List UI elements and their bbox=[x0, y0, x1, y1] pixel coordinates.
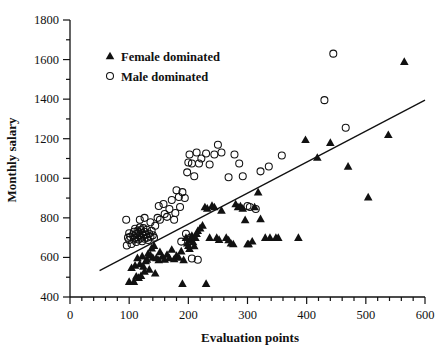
y-tick-label: 1800 bbox=[34, 13, 59, 27]
data-point-female-dominated bbox=[384, 130, 393, 138]
data-point-male-dominated bbox=[177, 203, 184, 210]
data-point-female-dominated bbox=[198, 221, 207, 229]
data-point-male-dominated bbox=[231, 151, 238, 158]
data-point-male-dominated bbox=[147, 219, 154, 226]
data-point-male-dominated bbox=[152, 222, 159, 229]
data-point-male-dominated bbox=[171, 216, 178, 223]
data-point-female-dominated bbox=[202, 279, 211, 287]
data-point-male-dominated bbox=[265, 163, 272, 170]
data-point-male-dominated bbox=[206, 161, 213, 168]
x-tick-label: 100 bbox=[120, 308, 139, 322]
data-point-female-dominated bbox=[344, 162, 353, 170]
data-point-female-dominated bbox=[294, 233, 303, 241]
trendline bbox=[100, 100, 425, 271]
data-point-male-dominated bbox=[236, 160, 243, 167]
y-tick-label: 1400 bbox=[34, 92, 59, 106]
data-point-male-dominated bbox=[342, 124, 349, 131]
data-point-female-dominated bbox=[326, 138, 335, 146]
data-point-male-dominated bbox=[178, 238, 185, 245]
data-point-male-dominated bbox=[193, 149, 200, 156]
data-point-male-dominated bbox=[257, 168, 264, 175]
data-point-female-dominated bbox=[151, 269, 160, 277]
data-point-male-dominated bbox=[278, 152, 285, 159]
data-point-male-dominated bbox=[123, 216, 130, 223]
legend-label-female-dominated: Female dominated bbox=[121, 50, 220, 64]
data-point-male-dominated bbox=[191, 173, 198, 180]
x-tick-label: 400 bbox=[297, 308, 316, 322]
data-point-female-dominated bbox=[178, 279, 187, 287]
data-point-female-dominated bbox=[301, 135, 310, 143]
y-tick-label: 800 bbox=[40, 211, 59, 225]
y-tick-label: 400 bbox=[40, 290, 59, 304]
x-tick-label: 200 bbox=[179, 308, 198, 322]
x-tick-label: 600 bbox=[416, 308, 435, 322]
data-point-male-dominated bbox=[184, 169, 191, 176]
data-point-male-dominated bbox=[218, 149, 225, 156]
data-point-female-dominated bbox=[364, 193, 373, 201]
data-point-male-dominated bbox=[186, 151, 193, 158]
y-tick-label: 1600 bbox=[34, 53, 59, 67]
y-tick-label: 1200 bbox=[34, 132, 59, 146]
y-tick-label: 600 bbox=[40, 250, 59, 264]
data-point-female-dominated bbox=[167, 245, 176, 253]
data-point-male-dominated bbox=[168, 197, 175, 204]
data-point-male-dominated bbox=[330, 50, 337, 57]
x-tick-label: 300 bbox=[238, 308, 257, 322]
scatter-plot-figure: 4006008001000120014001600180001002003004… bbox=[0, 0, 442, 347]
legend-label-male-dominated: Male dominated bbox=[121, 70, 208, 84]
data-point-female-dominated bbox=[400, 57, 409, 65]
data-point-female-dominated bbox=[177, 247, 186, 255]
x-axis-title: Evaluation points bbox=[201, 330, 299, 345]
chart-svg: 4006008001000120014001600180001002003004… bbox=[0, 0, 442, 347]
data-point-female-dominated bbox=[256, 215, 265, 223]
y-tick-label: 1000 bbox=[34, 171, 59, 185]
data-point-female-dominated bbox=[217, 206, 226, 214]
data-point-male-dominated bbox=[239, 173, 246, 180]
data-point-female-dominated bbox=[205, 233, 214, 241]
data-point-female-dominated bbox=[106, 52, 115, 60]
x-tick-label: 500 bbox=[356, 308, 375, 322]
data-point-male-dominated bbox=[211, 151, 218, 158]
legend-marker-male-dominated bbox=[107, 73, 114, 80]
x-tick-label: 0 bbox=[67, 308, 73, 322]
data-point-male-dominated bbox=[214, 141, 221, 148]
data-point-male-dominated bbox=[172, 209, 179, 216]
data-point-male-dominated bbox=[225, 174, 232, 181]
data-point-female-dominated bbox=[241, 216, 250, 224]
data-point-male-dominated bbox=[203, 150, 210, 157]
data-point-male-dominated bbox=[321, 97, 328, 104]
y-axis-title: Monthly salary bbox=[4, 117, 19, 202]
